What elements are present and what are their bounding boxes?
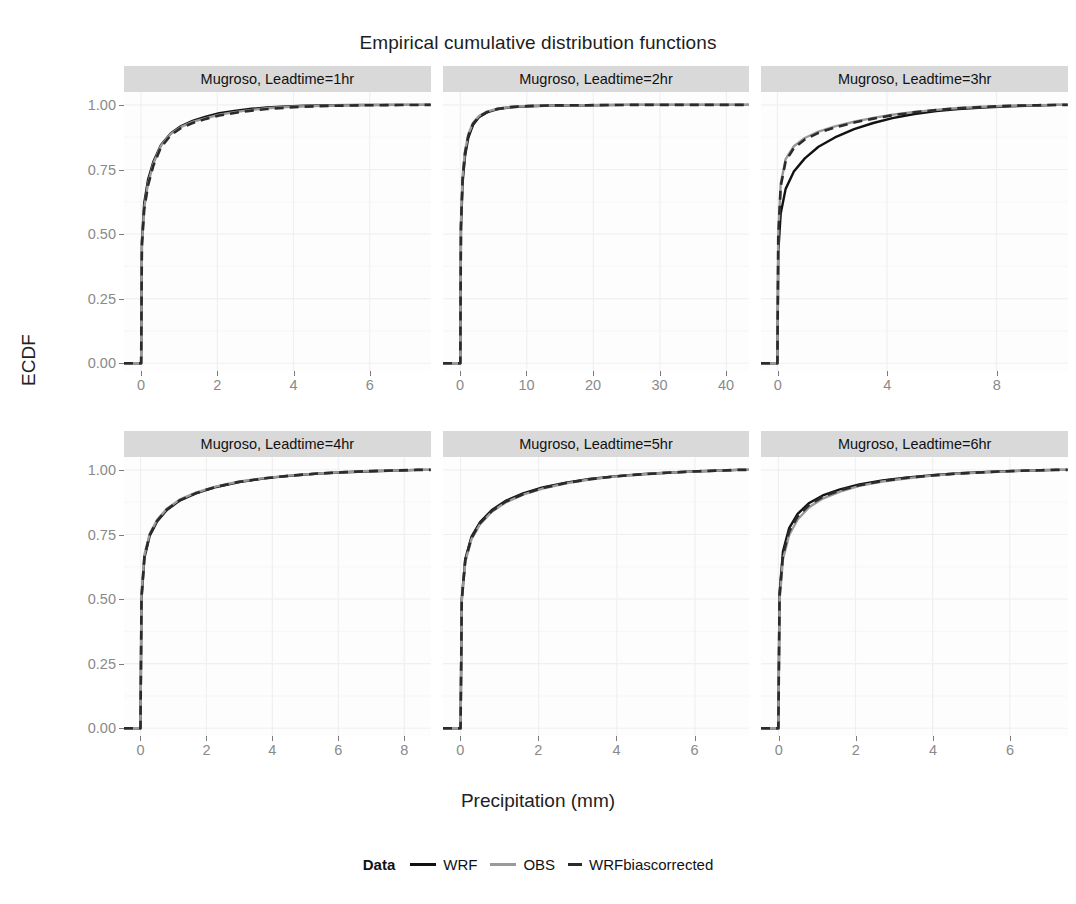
- x-tick-mark: [887, 371, 888, 376]
- x-tick-label: 2: [852, 742, 860, 758]
- x-axis-4: 02468: [124, 736, 431, 764]
- y-axis-row-1: 0.000.250.500.751.00: [54, 92, 124, 371]
- x-axis-label: Precipitation (mm): [0, 790, 1076, 812]
- facet-strip-label-2: Mugroso, Leadtime=2hr: [443, 66, 750, 92]
- y-tick-label: 0.75: [88, 527, 116, 543]
- y-tick-label: 1.00: [88, 97, 116, 113]
- facet-strip-label-3: Mugroso, Leadtime=3hr: [761, 66, 1068, 92]
- facet-strip-label-6: Mugroso, Leadtime=6hr: [761, 431, 1068, 457]
- x-axis-1: 0246: [124, 371, 431, 399]
- x-tick-label: 0: [456, 377, 464, 393]
- x-tick-label: 40: [718, 377, 734, 393]
- x-tick-mark: [1010, 736, 1011, 741]
- x-tick-label: 20: [585, 377, 601, 393]
- x-tick-mark: [272, 736, 273, 741]
- facet-strip-label-5: Mugroso, Leadtime=5hr: [443, 431, 750, 457]
- x-tick-label: 0: [775, 742, 783, 758]
- x-tick-mark: [294, 371, 295, 376]
- facet-strip-label-1: Mugroso, Leadtime=1hr: [124, 66, 431, 92]
- x-tick-label: 4: [612, 742, 620, 758]
- legend-item-wrfbiascorrected[interactable]: WRFbiascorrected: [568, 856, 713, 873]
- x-tick-label: 6: [366, 377, 374, 393]
- x-tick-mark: [217, 371, 218, 376]
- x-tick-mark: [460, 371, 461, 376]
- plot-area-4: [124, 457, 431, 736]
- y-tick-label: 0.25: [88, 291, 116, 307]
- x-tick-mark: [206, 736, 207, 741]
- plot-area-6: [761, 457, 1068, 736]
- x-tick-mark: [404, 736, 405, 741]
- x-tick-mark: [593, 371, 594, 376]
- legend-label-wrfbiascorrected: WRFbiascorrected: [589, 856, 713, 873]
- x-tick-mark: [538, 736, 539, 741]
- x-tick-mark: [660, 371, 661, 376]
- x-tick-mark: [460, 736, 461, 741]
- legend-item-obs[interactable]: OBS: [490, 856, 555, 873]
- x-tick-label: 6: [1006, 742, 1014, 758]
- plot-area-2: [443, 92, 750, 371]
- x-tick-label: 6: [334, 742, 342, 758]
- y-tick-label: 0.00: [88, 720, 116, 736]
- x-tick-label: 0: [456, 742, 464, 758]
- x-tick-mark: [370, 371, 371, 376]
- page-title: Empirical cumulative distribution functi…: [0, 32, 1076, 54]
- x-axis-2: 010203040: [443, 371, 750, 399]
- facet-strip-label-4: Mugroso, Leadtime=4hr: [124, 431, 431, 457]
- x-tick-label: 0: [774, 377, 782, 393]
- legend-swatch-wrfbiascorrected: [568, 863, 582, 866]
- y-axis-label: ECDF: [18, 300, 40, 420]
- x-tick-mark: [856, 736, 857, 741]
- x-tick-mark: [726, 371, 727, 376]
- x-tick-label: 10: [518, 377, 534, 393]
- legend-label-obs: OBS: [523, 856, 555, 873]
- legend-swatch-wrf: [410, 863, 436, 866]
- x-tick-mark: [933, 736, 934, 741]
- x-tick-label: 4: [289, 377, 297, 393]
- y-tick-label: 0.50: [88, 226, 116, 242]
- x-tick-label: 2: [213, 377, 221, 393]
- x-tick-label: 8: [400, 742, 408, 758]
- x-tick-mark: [616, 736, 617, 741]
- x-axis-3: 048: [761, 371, 1068, 399]
- facet-panel-6: Mugroso, Leadtime=6hr: [761, 431, 1068, 736]
- y-tick-label: 0.00: [88, 355, 116, 371]
- x-tick-mark: [140, 736, 141, 741]
- y-tick-label: 0.50: [88, 591, 116, 607]
- x-tick-label: 8: [993, 377, 1001, 393]
- legend-title: Data: [363, 856, 396, 873]
- x-tick-label: 0: [137, 377, 145, 393]
- y-axis-row-2: 0.000.250.500.751.00: [54, 457, 124, 736]
- x-tick-label: 4: [883, 377, 891, 393]
- x-tick-mark: [997, 371, 998, 376]
- y-tick-label: 1.00: [88, 462, 116, 478]
- x-axis-5: 0246: [443, 736, 750, 764]
- plot-area-1: [124, 92, 431, 371]
- x-tick-label: 0: [136, 742, 144, 758]
- y-tick-label: 0.75: [88, 162, 116, 178]
- legend-label-wrf: WRF: [443, 856, 477, 873]
- x-tick-label: 2: [202, 742, 210, 758]
- facet-panel-5: Mugroso, Leadtime=5hr: [443, 431, 750, 736]
- y-tick-label: 0.25: [88, 656, 116, 672]
- x-tick-mark: [695, 736, 696, 741]
- plot-area-3: [761, 92, 1068, 371]
- legend-swatch-obs: [490, 863, 516, 866]
- x-tick-mark: [526, 371, 527, 376]
- x-tick-label: 4: [929, 742, 937, 758]
- x-tick-label: 6: [691, 742, 699, 758]
- legend-item-wrf[interactable]: WRF: [410, 856, 477, 873]
- x-tick-mark: [779, 736, 780, 741]
- facet-panel-4: Mugroso, Leadtime=4hr: [124, 431, 431, 736]
- legend: Data WRF OBS WRFbiascorrected: [0, 856, 1076, 873]
- facet-panel-2: Mugroso, Leadtime=2hr: [443, 66, 750, 371]
- facet-panel-3: Mugroso, Leadtime=3hr: [761, 66, 1068, 371]
- facet-grid: Mugroso, Leadtime=1hr0246Mugroso, Leadti…: [124, 66, 1068, 766]
- ecdf-chart-figure: Empirical cumulative distribution functi…: [0, 0, 1076, 904]
- x-tick-label: 2: [534, 742, 542, 758]
- x-tick-label: 4: [268, 742, 276, 758]
- plot-area-5: [443, 457, 750, 736]
- x-tick-label: 30: [651, 377, 667, 393]
- x-tick-mark: [338, 736, 339, 741]
- x-tick-mark: [778, 371, 779, 376]
- x-tick-mark: [141, 371, 142, 376]
